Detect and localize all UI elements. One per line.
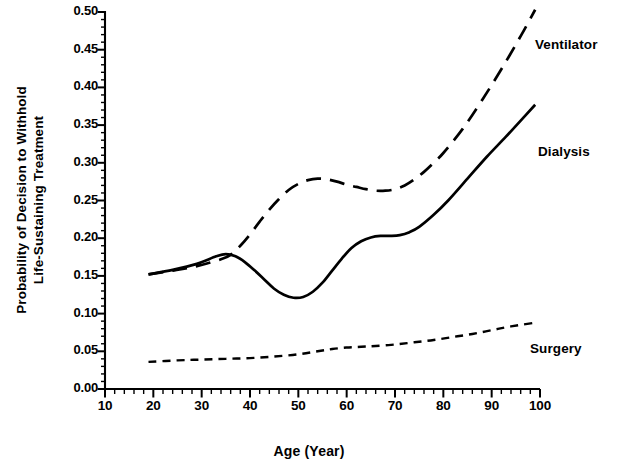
x-axis-tick-label: 90 bbox=[468, 398, 516, 413]
y-axis-tick-label: 0.35 bbox=[52, 116, 98, 131]
y-axis-tick-label: 0.00 bbox=[52, 380, 98, 395]
series-line-dialysis bbox=[149, 105, 536, 298]
x-axis-tick-label: 40 bbox=[226, 398, 274, 413]
x-axis-tick-label: 20 bbox=[129, 398, 177, 413]
y-axis-tick-label: 0.15 bbox=[52, 267, 98, 282]
y-axis-title-line-1: Probability of Decision to Withhold bbox=[13, 86, 30, 314]
x-axis-tick-label: 50 bbox=[274, 398, 322, 413]
x-axis-tick-label: 10 bbox=[81, 398, 129, 413]
x-axis-tick-label: 80 bbox=[419, 398, 467, 413]
y-axis-tick-label: 0.10 bbox=[52, 305, 98, 320]
y-axis-tick-label: 0.05 bbox=[52, 342, 98, 357]
y-axis-tick-label: 0.50 bbox=[52, 3, 98, 18]
y-axis-tick-label: 0.30 bbox=[52, 154, 98, 169]
y-axis-tick-label: 0.45 bbox=[52, 41, 98, 56]
series-line-ventilator bbox=[149, 10, 536, 275]
y-axis-tick-label: 0.40 bbox=[52, 78, 98, 93]
axes-group bbox=[98, 11, 541, 398]
series-label-dialysis: Dialysis bbox=[538, 144, 590, 159]
x-axis-tick-label: 60 bbox=[323, 398, 371, 413]
y-axis-tick-label: 0.20 bbox=[52, 229, 98, 244]
x-axis-tick-label: 100 bbox=[516, 398, 564, 413]
data-series-group bbox=[149, 10, 536, 362]
x-axis-tick-label: 70 bbox=[371, 398, 419, 413]
x-axis-title: Age (Year) bbox=[0, 443, 618, 459]
series-label-surgery: Surgery bbox=[530, 341, 582, 356]
series-line-surgery bbox=[149, 323, 536, 362]
series-label-ventilator: Ventilator bbox=[535, 37, 598, 52]
y-axis-tick-label: 0.25 bbox=[52, 192, 98, 207]
x-axis-tick-label: 30 bbox=[178, 398, 226, 413]
chart-figure: Probability of Decision to Withhold Life… bbox=[0, 0, 618, 476]
